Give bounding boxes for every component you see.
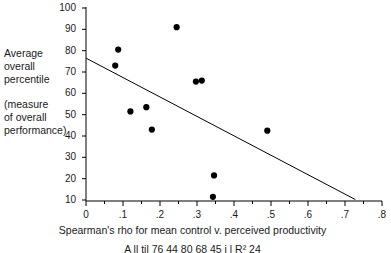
data-point (127, 108, 133, 114)
y-tick-label: 30 (50, 152, 76, 162)
data-point (264, 128, 270, 134)
data-point (115, 47, 121, 53)
x-tick-label: .7 (335, 210, 355, 220)
trend-line (86, 58, 355, 199)
x-axis-title: Spearman's rho for mean control v. perce… (0, 224, 385, 236)
y-tick-label: 50 (50, 110, 76, 120)
x-tick-label: .4 (224, 210, 244, 220)
data-point (211, 172, 217, 178)
x-tick-label: .6 (298, 210, 318, 220)
y-tick-label: 70 (50, 67, 76, 77)
x-tick-label: .3 (187, 210, 207, 220)
x-tick-label: .2 (150, 210, 170, 220)
y-tick-label: 10 (50, 195, 76, 205)
data-point (112, 63, 118, 69)
x-tick-label: .1 (113, 210, 133, 220)
data-point (199, 77, 205, 83)
data-point (174, 24, 180, 30)
y-tick-label: 90 (50, 24, 76, 34)
y-tick-label: 40 (50, 131, 76, 141)
x-tick-label: .5 (261, 210, 281, 220)
y-tick-label: 20 (50, 174, 76, 184)
x-tick-label: 0 (76, 210, 96, 220)
x-tick-label: .8 (372, 210, 391, 220)
y-tick-label: 100 (50, 3, 76, 13)
data-point (210, 194, 216, 200)
data-point (143, 104, 149, 110)
data-point (193, 79, 199, 85)
y-tick-label: 80 (50, 46, 76, 56)
chart-footnote: A ll til 76 44 80 68 45 i l R² 24 (0, 243, 385, 253)
data-point (149, 127, 155, 133)
y-tick-label: 60 (50, 88, 76, 98)
